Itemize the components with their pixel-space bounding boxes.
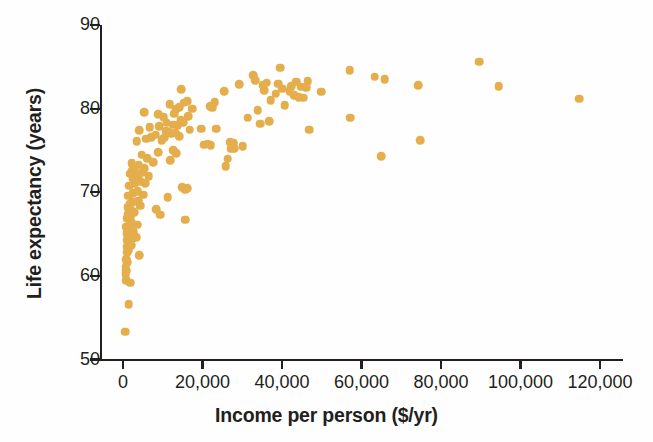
data-point xyxy=(121,262,130,271)
data-point xyxy=(302,83,311,92)
data-point xyxy=(133,221,142,230)
data-point xyxy=(169,146,178,155)
data-point xyxy=(207,141,216,150)
data-point xyxy=(271,89,280,98)
data-point xyxy=(122,267,131,276)
data-point xyxy=(181,185,190,194)
data-point xyxy=(128,198,137,207)
data-point xyxy=(149,158,158,167)
data-point xyxy=(260,86,269,95)
data-point xyxy=(133,171,142,180)
data-point xyxy=(208,103,217,112)
data-point xyxy=(292,78,301,87)
data-point xyxy=(129,227,138,236)
data-point xyxy=(166,156,175,165)
x-tick-label: 20,000 xyxy=(175,372,230,393)
x-tick-label: 40,000 xyxy=(254,372,309,393)
data-point xyxy=(188,104,197,113)
data-point xyxy=(177,85,186,94)
y-tick-label: 50 xyxy=(56,349,100,370)
data-point xyxy=(258,81,267,90)
data-point xyxy=(156,211,165,220)
data-point xyxy=(249,71,258,80)
data-point xyxy=(131,175,140,184)
data-point xyxy=(142,134,151,143)
data-point xyxy=(180,98,189,107)
data-point xyxy=(285,87,294,96)
x-tick-mark xyxy=(122,359,124,369)
data-point xyxy=(263,78,272,87)
data-point xyxy=(305,125,314,134)
data-point xyxy=(265,117,274,126)
x-tick-label: 100,000 xyxy=(488,372,553,393)
data-point xyxy=(138,168,147,177)
data-point xyxy=(494,82,503,91)
data-point xyxy=(122,242,131,251)
data-point xyxy=(299,93,308,102)
data-point xyxy=(171,129,180,138)
data-point xyxy=(212,124,221,133)
data-point xyxy=(140,108,149,117)
data-point xyxy=(238,142,247,151)
data-point xyxy=(256,119,265,128)
data-point xyxy=(157,136,166,145)
data-point xyxy=(184,112,193,121)
data-point xyxy=(159,113,168,122)
data-point xyxy=(178,183,187,192)
x-tick-mark xyxy=(519,359,521,369)
data-point xyxy=(130,208,139,217)
data-point xyxy=(132,233,141,242)
data-point xyxy=(197,124,206,133)
y-tick-label: 60 xyxy=(56,265,100,286)
data-point xyxy=(141,179,150,188)
data-point xyxy=(416,136,425,145)
x-tick-mark xyxy=(201,359,203,369)
data-point xyxy=(377,152,386,161)
data-point xyxy=(172,105,181,114)
data-point xyxy=(346,114,355,123)
data-point xyxy=(151,130,160,139)
data-point xyxy=(128,166,137,175)
data-point xyxy=(135,126,144,135)
data-point xyxy=(220,87,229,96)
data-point xyxy=(185,125,194,134)
data-point xyxy=(287,82,296,91)
data-point xyxy=(370,73,379,82)
data-point xyxy=(154,148,163,157)
data-point xyxy=(181,216,190,225)
data-point xyxy=(126,278,135,287)
y-tick-label: 90 xyxy=(56,14,100,35)
data-point xyxy=(125,300,134,309)
data-point xyxy=(147,133,156,142)
data-point xyxy=(136,177,145,186)
data-point xyxy=(345,66,354,75)
data-point xyxy=(125,200,134,209)
data-point xyxy=(126,212,135,221)
data-point xyxy=(290,91,299,100)
data-point xyxy=(127,206,136,215)
data-point xyxy=(274,79,283,88)
x-tick-label: 120,000 xyxy=(567,372,632,393)
data-point xyxy=(223,155,232,164)
x-tick-mark xyxy=(440,359,442,369)
data-point xyxy=(122,255,131,264)
data-point xyxy=(414,81,423,90)
data-point xyxy=(130,165,139,174)
scatter-plot-figure: Life expectancy (years) 5060708090 020,0… xyxy=(0,0,653,442)
data-point xyxy=(123,258,132,267)
data-point xyxy=(127,218,136,227)
data-point xyxy=(121,328,130,337)
data-point xyxy=(136,201,145,210)
data-point xyxy=(235,80,244,89)
data-point xyxy=(167,129,176,138)
data-point xyxy=(166,100,175,109)
data-point xyxy=(175,103,184,112)
data-point xyxy=(127,241,136,250)
x-tick-mark xyxy=(599,359,601,369)
x-tick-mark xyxy=(281,359,283,369)
data-point xyxy=(221,162,230,171)
data-point xyxy=(125,224,134,233)
data-point xyxy=(230,144,239,153)
y-axis-label: Life expectancy (years) xyxy=(23,24,46,364)
data-point xyxy=(169,120,178,129)
